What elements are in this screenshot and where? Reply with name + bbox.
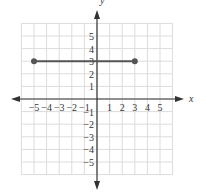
- x-axis-left-arrow-icon: [11, 96, 20, 102]
- x-tick-label: −2: [66, 102, 77, 113]
- y-tick-label: −2: [83, 119, 94, 130]
- x-axis-label: x: [188, 93, 194, 104]
- y-tick-label: 5: [89, 31, 94, 42]
- y-tick-label: −1: [83, 107, 94, 118]
- y-tick-label: 2: [89, 69, 94, 80]
- x-tick-label: 2: [120, 102, 125, 113]
- y-axis-down-arrow-icon: [94, 181, 100, 190]
- endpoint-dot: [132, 58, 138, 64]
- x-tick-label: 5: [158, 102, 163, 113]
- endpoint-dot: [31, 58, 37, 64]
- x-tick-label: 3: [132, 102, 137, 113]
- x-tick-label: 1: [107, 102, 112, 113]
- x-tick-label: −4: [41, 102, 52, 113]
- x-tick-label: −3: [54, 102, 65, 113]
- coordinate-plane: x y −5−4−3−2−112345 54321−1−2−3−4−5: [0, 0, 206, 193]
- x-axis-right-arrow-icon: [175, 96, 184, 102]
- y-tick-label: 1: [89, 81, 94, 92]
- y-tick-label: −3: [83, 132, 94, 143]
- y-axis-up-arrow-icon: [94, 10, 100, 19]
- x-tick-label: 4: [145, 102, 150, 113]
- y-tick-label: −5: [83, 157, 94, 168]
- y-axis-label: y: [99, 0, 105, 6]
- y-tick-label: 4: [89, 44, 94, 55]
- y-tick-label: −4: [83, 144, 94, 155]
- x-tick-label: −5: [29, 102, 40, 113]
